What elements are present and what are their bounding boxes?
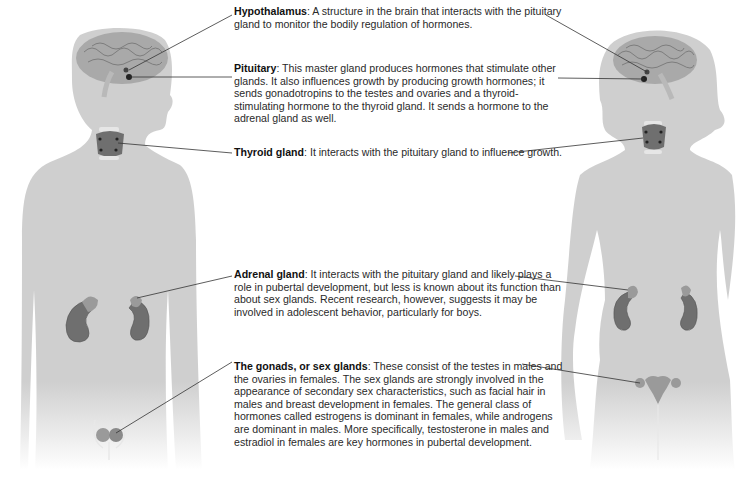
male-silhouette — [20, 28, 202, 470]
callout-term: Thyroid gland — [234, 146, 304, 158]
callout-term: Hypothalamus — [234, 5, 307, 17]
callout-text: This master gland produces hormones that… — [234, 62, 556, 124]
callout-text: These consist of the testes in males and… — [234, 360, 562, 448]
female-silhouette — [561, 31, 735, 470]
callout-hypothalamus: Hypothalamus: A structure in the brain t… — [234, 5, 564, 30]
callout-term: The gonads, or sex glands — [234, 360, 368, 372]
callout-text: It interacts with the pituitary gland to… — [310, 146, 562, 158]
callout-gonads: The gonads, or sex glands: These consist… — [234, 360, 564, 448]
callout-term: Pituitary — [234, 62, 276, 74]
endocrine-diagram: Hypothalamus: A structure in the brain t… — [0, 0, 755, 481]
callout-adrenal: Adrenal gland: It interacts with the pit… — [234, 268, 564, 318]
callout-pituitary: Pituitary: This master gland produces ho… — [234, 62, 564, 125]
callout-term: Adrenal gland — [234, 268, 305, 280]
callout-thyroid: Thyroid gland: It interacts with the pit… — [234, 146, 564, 159]
